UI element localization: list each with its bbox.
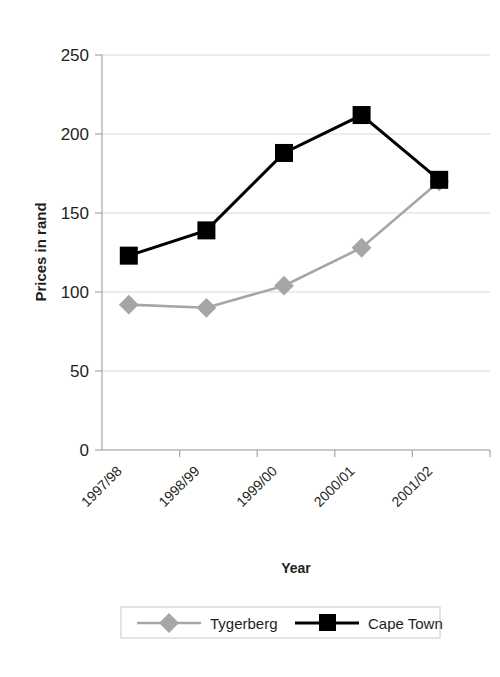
line-chart: 050100150200250 1997/981998/991999/00200…	[0, 0, 500, 677]
chart-legend: Tygerberg Cape Town	[121, 607, 443, 638]
x-tick-label: 1997/98	[78, 463, 125, 510]
y-axis-title: Prices in rand	[32, 202, 49, 301]
square-marker-icon	[353, 106, 371, 124]
x-tick-label: 1998/99	[155, 463, 202, 510]
x-tick-label: 2000/01	[311, 463, 358, 510]
legend-label-tygerberg: Tygerberg	[210, 615, 278, 632]
y-axis-ticks: 050100150200250	[61, 46, 102, 460]
y-tick-label: 200	[61, 125, 89, 144]
y-tick-label: 50	[70, 362, 89, 381]
square-marker-icon	[275, 144, 293, 162]
legend-label-cape-town: Cape Town	[368, 615, 443, 632]
x-axis-ticks: 1997/981998/991999/002000/012001/02	[78, 450, 490, 510]
x-tick-label: 1999/00	[233, 463, 280, 510]
y-tick-label: 0	[80, 441, 89, 460]
y-tick-label: 100	[61, 283, 89, 302]
square-marker-icon	[319, 614, 336, 631]
x-tick-label: 2001/02	[388, 463, 435, 510]
square-marker-icon	[430, 171, 448, 189]
square-marker-icon	[197, 221, 215, 239]
plot-area	[102, 55, 490, 450]
y-tick-label: 150	[61, 204, 89, 223]
square-marker-icon	[120, 247, 138, 265]
chart-canvas: 050100150200250 1997/981998/991999/00200…	[0, 0, 500, 677]
y-tick-label: 250	[61, 46, 89, 65]
x-axis-title: Year	[281, 560, 311, 576]
